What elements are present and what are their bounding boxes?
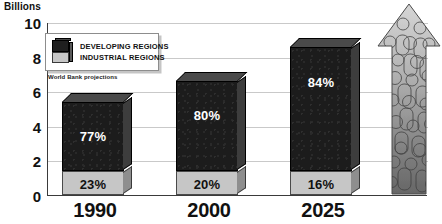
source-note: World Bank projections [48,74,117,80]
bar-segment-industrial: 23% [62,171,124,195]
legend-label-developing: DEVELOPING REGIONS [80,42,169,51]
bar-top-face [62,93,133,102]
x-label-1990: 1990 [38,199,152,222]
stacked-bar: 77% 23% [62,102,124,195]
bar-label-developing: 77% [63,129,123,144]
y-tick-2: 2 [0,153,41,170]
x-label-2025: 2025 [266,199,380,222]
legend-label-industrial: INDUSTRIAL REGIONS [80,53,169,62]
gridline-10 [48,23,428,24]
legend-cube-icon [52,40,73,64]
bar-label-developing: 84% [291,75,351,90]
bar-segment-developing: 80% [176,81,238,171]
bar-group-1990: 77% 23% [62,102,124,195]
legend-labels: DEVELOPING REGIONS INDUSTRIAL REGIONS [80,42,169,62]
bar-side-face-light [351,166,360,194]
legend-cube-side-face [69,42,73,62]
bar-group-2025: 84% 16% [290,47,352,195]
bar-side-face-light [237,166,246,194]
bar-top-face [290,38,361,47]
legend-swatch-developing [52,40,69,52]
bar-label-industrial: 23% [63,177,123,192]
bar-side-face [237,76,246,170]
stacked-bar: 80% 20% [176,81,238,195]
y-tick-8: 8 [0,49,41,66]
bar-top-face [176,72,247,81]
bar-segment-developing: 84% [290,47,352,171]
bar-segment-developing: 77% [62,102,124,171]
y-tick-0: 0 [0,188,41,205]
bar-segment-industrial: 16% [290,171,352,195]
legend-swatch-industrial [52,52,69,63]
chart-legend: DEVELOPING REGIONS INDUSTRIAL REGIONS [45,33,159,71]
bar-group-2000: 80% 20% [176,81,238,195]
stacked-bar: 84% 16% [290,47,352,195]
bar-side-face [351,42,360,170]
y-tick-10: 10 [0,15,41,32]
bar-label-developing: 80% [177,108,237,123]
bar-label-industrial: 20% [177,177,237,192]
bar-segment-industrial: 20% [176,171,238,195]
bar-side-face-light [123,166,132,194]
x-label-2000: 2000 [152,199,266,222]
bar-label-industrial: 16% [291,177,351,192]
y-axis-title: Billions [4,1,41,12]
population-growth-chart: Billions 77% 23% [0,0,442,224]
y-tick-4: 4 [0,118,41,135]
y-tick-6: 6 [0,84,41,101]
bar-side-face [123,97,132,170]
